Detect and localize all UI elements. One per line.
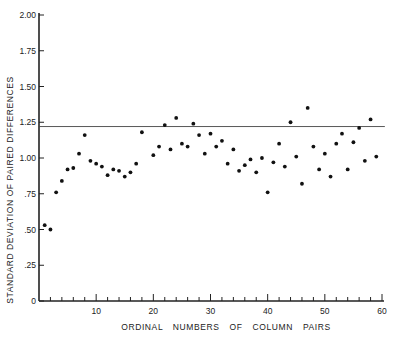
- data-point: [340, 132, 344, 136]
- y-tick-label: .50: [24, 225, 36, 235]
- data-point: [363, 159, 367, 163]
- data-point: [214, 145, 218, 149]
- data-point: [83, 133, 87, 137]
- data-point: [140, 130, 144, 134]
- data-point: [323, 152, 327, 156]
- data-point: [352, 140, 356, 144]
- data-point: [231, 148, 235, 152]
- x-tick-label: 10: [91, 306, 101, 316]
- y-tick-label: .75: [24, 189, 36, 199]
- data-point: [43, 223, 47, 227]
- data-point: [89, 159, 93, 163]
- data-point: [94, 162, 98, 166]
- data-point: [151, 153, 155, 157]
- x-axis: 102030405060: [39, 294, 387, 316]
- y-axis-label: STANDARD DEVIATION OF PAIRED DIFFERENCES: [5, 76, 15, 304]
- scatter-chart: 0.25.50.751.001.251.501.752.00 102030405…: [0, 0, 393, 340]
- y-tick-label: .25: [24, 260, 36, 270]
- y-tick-label: 2.00: [19, 10, 36, 20]
- data-point: [54, 190, 58, 194]
- data-point: [169, 148, 173, 152]
- y-tick-label: 0: [31, 296, 36, 306]
- data-point: [329, 175, 333, 179]
- x-tick-label: 20: [149, 306, 159, 316]
- data-point: [260, 156, 264, 160]
- y-tick-label: 1.75: [19, 46, 36, 56]
- data-point: [163, 123, 167, 127]
- data-point: [243, 163, 247, 167]
- data-point: [209, 132, 213, 136]
- data-point: [174, 116, 178, 120]
- data-point: [111, 168, 115, 172]
- x-tick-label: 50: [320, 306, 330, 316]
- data-point: [186, 145, 190, 149]
- data-point: [254, 170, 258, 174]
- data-point: [249, 158, 253, 162]
- data-point: [357, 126, 361, 130]
- data-point: [129, 170, 133, 174]
- data-point: [100, 165, 104, 169]
- data-point: [134, 162, 138, 166]
- data-point: [277, 142, 281, 146]
- data-point: [180, 142, 184, 146]
- x-axis-label: ORDINAL NUMBERS OF COLUMN PAIRS: [121, 322, 331, 332]
- y-axis: 0.25.50.751.001.251.501.752.00: [19, 10, 44, 306]
- x-tick-label: 30: [206, 306, 216, 316]
- data-point: [312, 145, 316, 149]
- data-point: [374, 155, 378, 159]
- data-point: [334, 142, 338, 146]
- data-point: [117, 169, 121, 173]
- data-point: [237, 169, 241, 173]
- data-point: [266, 190, 270, 194]
- y-tick-label: 1.50: [19, 82, 36, 92]
- data-point: [60, 179, 64, 183]
- y-tick-label: 1.25: [19, 117, 36, 127]
- data-point: [49, 228, 53, 232]
- data-point: [306, 106, 310, 110]
- data-point: [317, 168, 321, 172]
- data-point: [203, 152, 207, 156]
- data-point: [346, 168, 350, 172]
- data-point: [300, 182, 304, 186]
- data-point: [157, 145, 161, 149]
- data-point: [220, 139, 224, 143]
- data-point: [283, 165, 287, 169]
- data-point: [191, 122, 195, 126]
- data-point: [271, 160, 275, 164]
- data-point: [77, 152, 81, 156]
- data-point: [123, 175, 127, 179]
- data-point: [294, 155, 298, 159]
- data-point: [369, 117, 373, 121]
- data-point: [226, 162, 230, 166]
- data-point: [66, 168, 70, 172]
- data-point: [289, 120, 293, 124]
- data-point: [106, 173, 110, 177]
- data-point: [71, 166, 75, 170]
- x-tick-label: 60: [377, 306, 387, 316]
- y-tick-label: 1.00: [19, 153, 36, 163]
- x-tick-label: 40: [263, 306, 273, 316]
- data-points: [43, 106, 378, 231]
- data-point: [197, 133, 201, 137]
